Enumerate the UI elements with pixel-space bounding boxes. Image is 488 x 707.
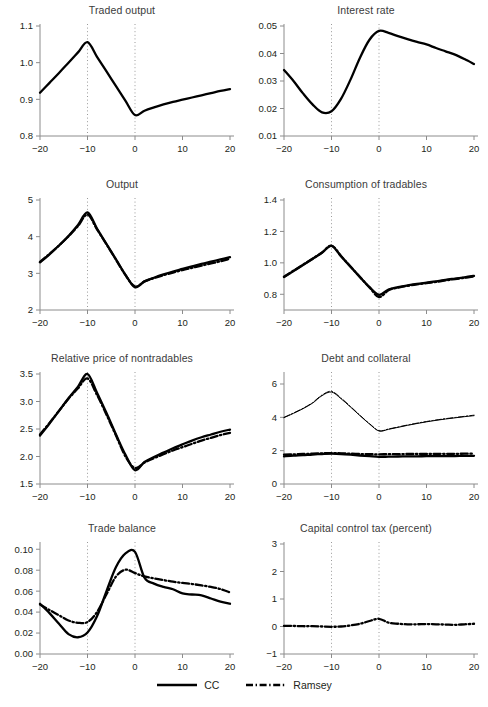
plot-area: 0246−20−1001020 <box>244 348 488 520</box>
svg-text:−10: −10 <box>323 661 339 672</box>
legend-label: CC <box>204 679 219 691</box>
svg-text:0.04: 0.04 <box>259 48 278 59</box>
svg-text:−20: −20 <box>276 317 292 328</box>
svg-text:0: 0 <box>376 317 381 328</box>
svg-text:5: 5 <box>28 194 33 205</box>
svg-text:1.4: 1.4 <box>264 194 277 205</box>
panel-relative-price-of-nontradables: Relative price of nontradables 1.52.02.5… <box>0 348 244 520</box>
legend-line-solid-icon <box>156 680 198 690</box>
svg-text:10: 10 <box>421 143 432 154</box>
svg-text:2: 2 <box>272 445 277 456</box>
svg-text:20: 20 <box>225 317 236 328</box>
panel-traded-output: Traded output 0.80.91.01.1−20−1001020 <box>0 0 244 172</box>
svg-text:3: 3 <box>272 538 277 549</box>
svg-text:10: 10 <box>421 317 432 328</box>
svg-text:0: 0 <box>376 491 381 502</box>
svg-text:20: 20 <box>225 491 236 502</box>
panel-consumption-of-tradables: Consumption of tradables 0.81.01.21.4−20… <box>244 174 488 346</box>
plot-area: −10123−20−1001020 <box>244 518 488 690</box>
svg-text:10: 10 <box>421 661 432 672</box>
svg-text:1: 1 <box>272 593 277 604</box>
svg-text:0.01: 0.01 <box>259 130 278 141</box>
svg-text:0.08: 0.08 <box>15 565 34 576</box>
svg-text:20: 20 <box>469 491 480 502</box>
svg-text:−20: −20 <box>276 661 292 672</box>
svg-text:1.5: 1.5 <box>20 478 33 489</box>
svg-text:0.02: 0.02 <box>259 103 278 114</box>
panel-output: Output 2345−20−1001020 <box>0 174 244 346</box>
svg-text:20: 20 <box>469 661 480 672</box>
svg-text:3.5: 3.5 <box>20 368 33 379</box>
svg-text:10: 10 <box>421 491 432 502</box>
svg-text:20: 20 <box>469 317 480 328</box>
figure-legend: CC Ramsey <box>0 672 488 698</box>
svg-text:0.03: 0.03 <box>259 75 278 86</box>
svg-text:0: 0 <box>132 661 137 672</box>
svg-text:20: 20 <box>225 143 236 154</box>
svg-text:20: 20 <box>225 661 236 672</box>
svg-text:0: 0 <box>376 143 381 154</box>
svg-text:−10: −10 <box>79 143 95 154</box>
svg-text:−10: −10 <box>79 491 95 502</box>
svg-text:2: 2 <box>272 566 277 577</box>
svg-text:−20: −20 <box>32 491 48 502</box>
svg-text:10: 10 <box>177 661 188 672</box>
panel-trade-balance: Trade balance 0.000.020.040.060.080.10−2… <box>0 518 244 690</box>
panel-capital-control-tax: Capital control tax (percent) −10123−20−… <box>244 518 488 690</box>
svg-text:4: 4 <box>28 231 33 242</box>
svg-text:1.1: 1.1 <box>20 20 33 31</box>
plot-area: 0.000.020.040.060.080.10−20−1001020 <box>0 518 244 690</box>
svg-text:−10: −10 <box>79 661 95 672</box>
svg-text:0: 0 <box>376 661 381 672</box>
impulse-response-figure: Traded output 0.80.91.01.1−20−1001020 In… <box>0 0 488 707</box>
svg-text:−10: −10 <box>323 317 339 328</box>
svg-text:0.06: 0.06 <box>15 586 34 597</box>
plot-area: 1.52.02.53.03.5−20−1001020 <box>0 348 244 520</box>
legend-label: Ramsey <box>293 679 332 691</box>
plot-area: 0.010.020.030.040.05−20−1001020 <box>244 0 488 172</box>
plot-area: 2345−20−1001020 <box>0 174 244 346</box>
svg-text:10: 10 <box>177 491 188 502</box>
svg-text:3: 3 <box>28 268 33 279</box>
svg-text:1.0: 1.0 <box>20 57 33 68</box>
svg-text:0.02: 0.02 <box>15 627 34 638</box>
svg-text:0.8: 0.8 <box>20 130 33 141</box>
svg-text:−20: −20 <box>276 143 292 154</box>
svg-text:−10: −10 <box>323 143 339 154</box>
svg-text:0.10: 0.10 <box>15 544 34 555</box>
svg-text:1.0: 1.0 <box>264 257 277 268</box>
svg-text:1.2: 1.2 <box>264 226 277 237</box>
svg-text:4: 4 <box>272 412 277 423</box>
svg-text:2.0: 2.0 <box>20 451 33 462</box>
legend-entry-ramsey: Ramsey <box>245 679 332 691</box>
legend-entry-cc: CC <box>156 679 219 691</box>
svg-text:0: 0 <box>132 143 137 154</box>
svg-text:−10: −10 <box>79 317 95 328</box>
svg-text:6: 6 <box>272 378 277 389</box>
svg-text:0: 0 <box>132 317 137 328</box>
panel-debt-and-collateral: Debt and collateral 0246−20−1001020 <box>244 348 488 520</box>
svg-text:10: 10 <box>177 143 188 154</box>
svg-text:10: 10 <box>177 317 188 328</box>
svg-text:0: 0 <box>132 491 137 502</box>
svg-text:3.0: 3.0 <box>20 396 33 407</box>
svg-text:−20: −20 <box>32 661 48 672</box>
svg-text:0.8: 0.8 <box>264 289 277 300</box>
svg-text:2: 2 <box>28 304 33 315</box>
svg-text:−10: −10 <box>323 491 339 502</box>
svg-text:−20: −20 <box>32 317 48 328</box>
svg-text:0: 0 <box>272 478 277 489</box>
legend-line-dashdot-icon <box>245 680 287 690</box>
svg-text:0.9: 0.9 <box>20 94 33 105</box>
svg-text:0: 0 <box>272 621 277 632</box>
panel-interest-rate: Interest rate 0.010.020.030.040.05−20−10… <box>244 0 488 172</box>
svg-text:0.05: 0.05 <box>259 20 278 31</box>
svg-text:0.04: 0.04 <box>15 606 34 617</box>
svg-text:−20: −20 <box>32 143 48 154</box>
plot-area: 0.80.91.01.1−20−1001020 <box>0 0 244 172</box>
svg-text:20: 20 <box>469 143 480 154</box>
svg-text:−1: −1 <box>266 648 277 659</box>
svg-text:−20: −20 <box>276 491 292 502</box>
plot-area: 0.81.01.21.4−20−1001020 <box>244 174 488 346</box>
svg-text:2.5: 2.5 <box>20 423 33 434</box>
